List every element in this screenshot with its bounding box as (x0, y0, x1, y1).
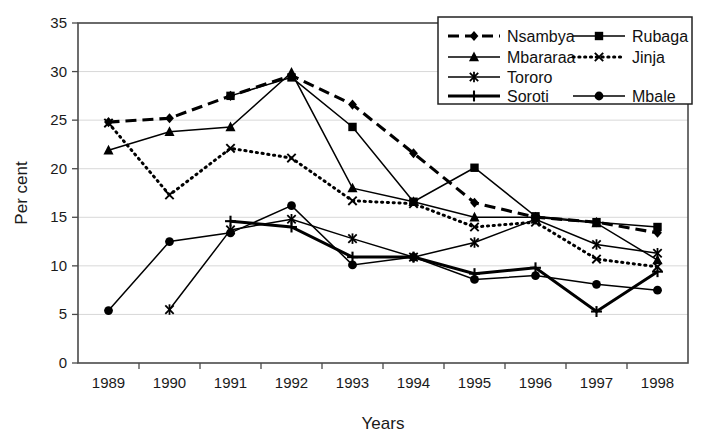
y-tick-label: 30 (50, 63, 67, 80)
data-point-marker (287, 201, 296, 210)
data-point-marker (165, 191, 173, 199)
data-point-marker (347, 183, 357, 193)
data-point-marker (165, 237, 174, 246)
data-point-marker (348, 197, 356, 205)
data-point-marker (165, 304, 173, 315)
x-tick-label: 1989 (92, 374, 125, 391)
data-point-marker (470, 275, 479, 284)
x-tick-label: 1992 (275, 374, 308, 391)
legend-label: Rubaga (632, 28, 688, 45)
x-axis-tick-marks (139, 363, 627, 369)
legend-label: Soroti (507, 88, 549, 105)
data-point-marker (348, 123, 356, 131)
x-axis-tick-labels: 1989199019911992199319941995199619971998 (92, 374, 674, 391)
x-tick-label: 1993 (336, 374, 369, 391)
series-line (170, 219, 658, 309)
data-point-marker (104, 306, 113, 315)
legend-label: Mbale (632, 88, 676, 105)
y-tick-label: 25 (50, 111, 67, 128)
data-point-marker (653, 286, 662, 295)
y-axis-tick-marks (72, 23, 78, 363)
data-point-marker (348, 233, 356, 244)
data-point-marker (226, 92, 234, 100)
y-tick-label: 15 (50, 208, 67, 225)
line-chart: 05101520253035 1989199019911992199319941… (0, 0, 703, 439)
chart-legend: NsambyaRubagaMbararaaJinjaTororoSorotiMb… (438, 17, 692, 105)
data-point-marker (409, 253, 418, 262)
x-tick-label: 1998 (641, 374, 674, 391)
data-point-marker (595, 92, 604, 101)
data-point-marker (165, 113, 174, 123)
y-tick-label: 10 (50, 257, 67, 274)
y-tick-label: 35 (50, 14, 67, 31)
y-axis-title: Per cent (12, 161, 31, 225)
x-tick-label: 1996 (519, 374, 552, 391)
data-point-marker (226, 228, 235, 237)
x-axis-title: Years (362, 414, 405, 433)
x-tick-label: 1997 (580, 374, 613, 391)
x-tick-label: 1994 (397, 374, 430, 391)
y-axis-tick-labels: 05101520253035 (50, 14, 67, 371)
legend-label: Mbararaa (507, 49, 576, 66)
legend-label: Jinja (632, 49, 665, 66)
legend-label: Tororo (507, 69, 552, 86)
x-tick-label: 1995 (458, 374, 491, 391)
data-point-marker (592, 280, 601, 289)
x-tick-label: 1991 (214, 374, 247, 391)
y-tick-label: 0 (59, 354, 67, 371)
y-tick-label: 20 (50, 160, 67, 177)
data-point-marker (595, 32, 603, 40)
data-point-marker (653, 223, 661, 231)
y-tick-label: 5 (59, 305, 67, 322)
data-point-marker (531, 271, 540, 280)
chart-container: 05101520253035 1989199019911992199319941… (0, 0, 703, 439)
legend-label: Nsambya (507, 28, 575, 45)
data-point-marker (287, 154, 295, 162)
data-point-marker (470, 164, 478, 172)
data-point-marker (348, 260, 357, 269)
x-tick-label: 1990 (153, 374, 186, 391)
